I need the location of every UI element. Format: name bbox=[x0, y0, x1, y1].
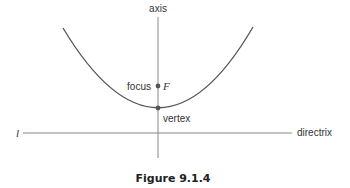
figure-caption: Figure 9.1.4 bbox=[135, 172, 210, 185]
focus-point bbox=[156, 84, 161, 89]
directrix-label: directrix bbox=[297, 127, 332, 138]
vertex-label: vertex bbox=[163, 113, 190, 124]
focus-label: focus bbox=[127, 81, 151, 92]
directrix-symbol: l bbox=[16, 127, 19, 139]
axis-label: axis bbox=[149, 3, 167, 14]
parabola-diagram: axis focus F vertex directrix l Figure 9… bbox=[0, 0, 350, 188]
vertex-point bbox=[156, 106, 161, 111]
focus-symbol: F bbox=[162, 80, 170, 92]
